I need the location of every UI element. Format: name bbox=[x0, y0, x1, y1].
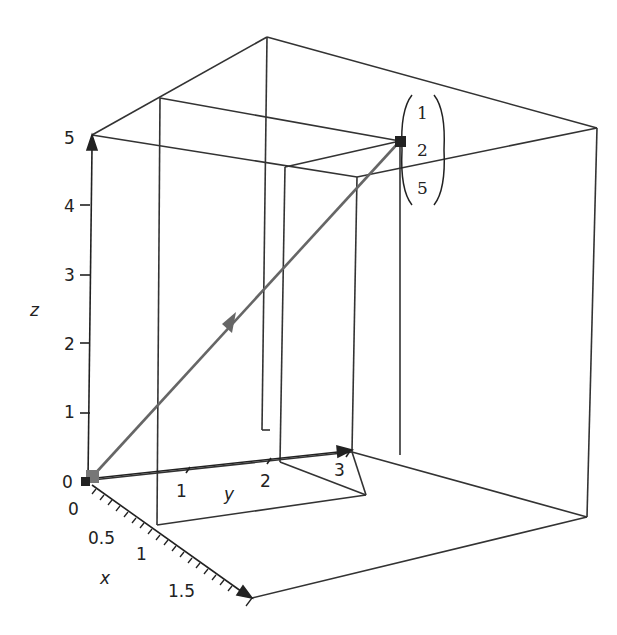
x-axis-label: x bbox=[99, 568, 111, 588]
z-tick-3: 3 bbox=[64, 265, 75, 285]
x-tick-1-5: 1.5 bbox=[168, 581, 195, 601]
vector-component-y: 2 bbox=[417, 140, 428, 160]
z-axis bbox=[80, 135, 97, 480]
vector-component-x: 1 bbox=[417, 103, 428, 123]
z-tick-2: 2 bbox=[64, 334, 75, 354]
bounding-box bbox=[92, 37, 597, 598]
z-axis-label: z bbox=[29, 300, 40, 320]
left-paren bbox=[402, 95, 412, 205]
x-tick-1: 1 bbox=[136, 544, 147, 564]
y-axis bbox=[96, 446, 352, 478]
vector-component-z: 5 bbox=[417, 178, 428, 198]
y-axis-label: y bbox=[223, 484, 235, 504]
y-tick-1: 1 bbox=[176, 481, 187, 501]
z-tick-4: 4 bbox=[64, 196, 75, 216]
vector-arrow bbox=[81, 136, 406, 486]
y-tick-3: 3 bbox=[334, 460, 345, 480]
x-tick-0: 0 bbox=[68, 499, 79, 519]
3d-vector-plot: 0 1 2 3 4 5 z bbox=[0, 0, 617, 635]
z-tick-5: 5 bbox=[64, 128, 75, 148]
z-tick-0: 0 bbox=[62, 472, 73, 492]
z-tick-1: 1 bbox=[64, 402, 75, 422]
x-tick-0-5: 0.5 bbox=[88, 528, 115, 548]
x-tick-labels: 0 0.5 1 1.5 x bbox=[68, 499, 195, 601]
origin-square-icon bbox=[81, 477, 90, 486]
y-tick-2: 2 bbox=[260, 471, 271, 491]
vector-label: 1 2 5 bbox=[402, 95, 445, 205]
z-tick-labels: 0 1 2 3 4 5 z bbox=[29, 128, 75, 492]
vector-direction-arrowhead bbox=[222, 312, 236, 333]
right-paren bbox=[434, 95, 444, 205]
endpoint-marker-icon bbox=[395, 136, 406, 147]
